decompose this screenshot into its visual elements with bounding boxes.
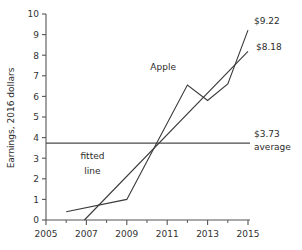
apple-line-series	[66, 30, 248, 212]
y-tick-label: 10	[28, 9, 40, 19]
fitted-line-annotation-line2: line	[84, 166, 101, 176]
y-tick-label: 0	[33, 215, 39, 225]
fitted-line-annotation-line1: fitted	[80, 151, 104, 161]
apple-series-annotation: Apple	[150, 62, 176, 72]
y-tick-label: 7	[33, 71, 39, 81]
y-tick-label: 5	[33, 112, 39, 122]
average-value-label: $3.73	[254, 129, 280, 139]
y-axis-ticks: 012345678910	[28, 9, 46, 225]
x-tick-label: 2011	[156, 229, 179, 239]
x-axis-ticks: 200520072009201120132015	[35, 220, 260, 239]
x-tick-label: 2009	[115, 229, 138, 239]
y-tick-label: 3	[33, 154, 39, 164]
apple-end-value-label: $9.22	[254, 16, 280, 26]
chart-container: Earnings, 2016 dollars 012345678910 2005…	[0, 0, 302, 250]
earnings-line-chart: Earnings, 2016 dollars 012345678910 2005…	[0, 0, 302, 250]
y-tick-label: 4	[33, 133, 39, 143]
fitted-end-value-label: $8.18	[256, 42, 282, 52]
y-tick-label: 6	[33, 92, 39, 102]
average-text-label: average	[254, 142, 291, 152]
y-tick-label: 1	[33, 195, 39, 205]
y-tick-label: 2	[33, 174, 39, 184]
x-tick-label: 2005	[35, 229, 58, 239]
y-tick-label: 9	[33, 30, 39, 40]
y-axis-title: Earnings, 2016 dollars	[6, 67, 16, 168]
fitted-line-series	[84, 51, 248, 220]
y-tick-label: 8	[33, 51, 39, 61]
x-tick-label: 2015	[237, 229, 260, 239]
x-tick-label: 2013	[196, 229, 219, 239]
x-tick-label: 2007	[75, 229, 98, 239]
